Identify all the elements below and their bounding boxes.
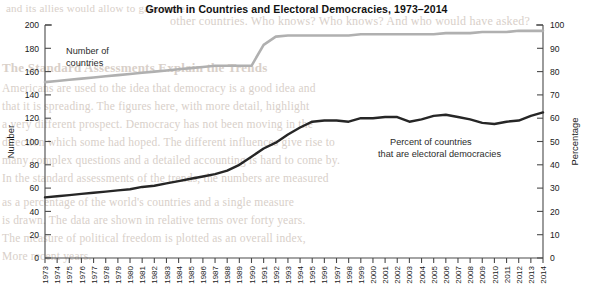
x-tick-label: 1985 bbox=[187, 265, 196, 283]
chart-page: and its allies would allow to gain some … bbox=[0, 0, 593, 301]
y-tick-label-left: 20 bbox=[29, 230, 39, 240]
x-tick-label: 1992 bbox=[272, 265, 281, 283]
x-tick-label: 2008 bbox=[466, 265, 475, 283]
y-tick-label-right: 20 bbox=[550, 207, 560, 217]
y-tick-label-left: 60 bbox=[29, 183, 39, 193]
x-tick-label: 1999 bbox=[357, 265, 366, 283]
x-tick-label: 1988 bbox=[223, 265, 232, 283]
x-tick-label: 1989 bbox=[235, 265, 244, 283]
y-tick-label-right: 40 bbox=[550, 160, 560, 170]
y-tick-label-right: 60 bbox=[550, 113, 560, 123]
x-tick-label: 1994 bbox=[296, 265, 305, 283]
y-tick-label-left: 80 bbox=[29, 160, 39, 170]
x-tick-label: 1980 bbox=[126, 265, 135, 283]
x-tick-label: 1978 bbox=[102, 265, 111, 283]
x-tick-label: 2011 bbox=[503, 265, 512, 283]
x-tick-label: 1982 bbox=[150, 265, 159, 283]
x-tick-label: 1981 bbox=[138, 265, 147, 283]
x-tick-label: 1986 bbox=[199, 265, 208, 283]
y-tick-label-right: 50 bbox=[550, 137, 560, 147]
x-tick-label: 2013 bbox=[527, 265, 536, 283]
x-tick-label: 1975 bbox=[65, 265, 74, 283]
x-tick-label: 2009 bbox=[478, 265, 487, 283]
chart-svg: 0204060801001201401601802000102030405060… bbox=[0, 0, 593, 301]
x-tick-label: 2012 bbox=[515, 265, 524, 283]
x-tick-label: 1995 bbox=[308, 265, 317, 283]
annotation-percent-democracies: that are electoral democracies bbox=[378, 149, 501, 159]
y-axis-label-right: Percentage bbox=[569, 118, 580, 166]
x-tick-label: 1979 bbox=[114, 265, 123, 283]
y-tick-label-left: 180 bbox=[25, 44, 40, 54]
y-tick-label-right: 80 bbox=[550, 67, 560, 77]
x-tick-label: 1984 bbox=[175, 265, 184, 283]
y-tick-label-left: 140 bbox=[25, 90, 40, 100]
y-tick-label-right: 0 bbox=[550, 253, 555, 263]
x-tick-label: 2014 bbox=[539, 265, 548, 283]
x-tick-label: 1977 bbox=[90, 265, 99, 283]
x-tick-label: 2007 bbox=[454, 265, 463, 283]
annotation-number-of-countries: Number of bbox=[66, 46, 109, 56]
x-tick-label: 1973 bbox=[41, 265, 50, 283]
x-tick-label: 1993 bbox=[284, 265, 293, 283]
y-tick-label-left: 160 bbox=[25, 67, 40, 77]
x-tick-label: 1997 bbox=[333, 265, 342, 283]
y-axis-label-left: Number bbox=[5, 125, 16, 158]
y-tick-label-right: 70 bbox=[550, 90, 560, 100]
y-tick-label-right: 90 bbox=[550, 44, 560, 54]
x-tick-label: 2010 bbox=[491, 265, 500, 283]
y-tick-label-left: 120 bbox=[25, 113, 40, 123]
y-tick-label-right: 10 bbox=[550, 230, 560, 240]
x-tick-label: 1998 bbox=[345, 265, 354, 283]
x-tick-label: 1976 bbox=[78, 265, 87, 283]
y-tick-label-left: 100 bbox=[25, 137, 40, 147]
series-line-number-of-countries bbox=[45, 31, 543, 82]
x-tick-label: 1983 bbox=[163, 265, 172, 283]
y-tick-label-left: 0 bbox=[34, 253, 39, 263]
chart-plot-area: 0204060801001201401601802000102030405060… bbox=[0, 0, 593, 301]
y-tick-label-left: 200 bbox=[25, 20, 40, 30]
x-tick-label: 2004 bbox=[418, 265, 427, 283]
y-tick-label-right: 30 bbox=[550, 183, 560, 193]
x-tick-label: 2005 bbox=[430, 265, 439, 283]
annotation-percent-democracies: Percent of countries bbox=[390, 137, 472, 147]
x-tick-label: 1996 bbox=[320, 265, 329, 283]
annotation-number-of-countries: countries bbox=[66, 58, 104, 68]
x-tick-label: 1990 bbox=[248, 265, 257, 283]
x-tick-label: 1974 bbox=[53, 265, 62, 283]
x-tick-label: 2006 bbox=[442, 265, 451, 283]
y-tick-label-right: 100 bbox=[550, 20, 565, 30]
x-tick-label: 1987 bbox=[211, 265, 220, 283]
x-tick-label: 2000 bbox=[369, 265, 378, 283]
x-tick-label: 2002 bbox=[393, 265, 402, 283]
x-tick-label: 1991 bbox=[260, 265, 269, 283]
y-tick-label-left: 40 bbox=[29, 207, 39, 217]
x-tick-label: 2003 bbox=[405, 265, 414, 283]
x-tick-label: 2001 bbox=[381, 265, 390, 283]
